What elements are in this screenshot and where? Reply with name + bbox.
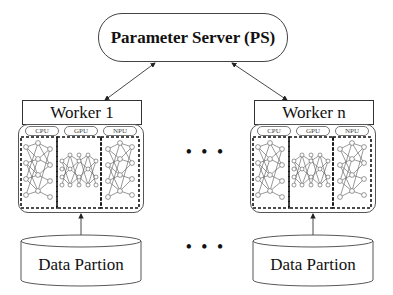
data-partition-n-label: Data Partion bbox=[253, 255, 373, 275]
ps-workern-arrow bbox=[232, 63, 287, 100]
cpu-chip-label: CPU bbox=[257, 126, 291, 136]
worker-n-label: Worker n bbox=[282, 103, 345, 123]
worker-n-hardware: CPU GPU NPU bbox=[250, 124, 376, 213]
npu-chip-label: NPU bbox=[335, 126, 369, 136]
worker-n-node: Worker n bbox=[254, 100, 374, 125]
worker-1-node: Worker 1 bbox=[22, 100, 142, 125]
gpu-chip-label: GPU bbox=[296, 126, 330, 136]
ellipsis-data: • • • bbox=[186, 238, 226, 256]
gpu-chip-label: GPU bbox=[64, 126, 98, 136]
worker-1-label: Worker 1 bbox=[50, 103, 113, 123]
ps-worker1-arrow bbox=[105, 63, 155, 100]
worker-1-hardware: CPU GPU NPU bbox=[18, 124, 144, 213]
cpu-chip-label: CPU bbox=[25, 126, 59, 136]
parameter-server-node: Parameter Server (PS) bbox=[98, 13, 288, 62]
diagram-canvas: Parameter Server (PS) Worker 1 Worker n … bbox=[0, 0, 393, 295]
npu-chip-label: NPU bbox=[103, 126, 137, 136]
parameter-server-label: Parameter Server (PS) bbox=[111, 28, 276, 48]
data-partition-1-label: Data Partion bbox=[21, 255, 141, 275]
ellipsis-workers: • • • bbox=[186, 143, 226, 161]
